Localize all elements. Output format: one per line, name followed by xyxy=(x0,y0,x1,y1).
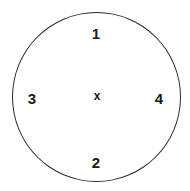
position-label-top: 1 xyxy=(92,26,100,41)
position-label-bottom: 2 xyxy=(92,155,100,170)
center-mark: x xyxy=(94,90,101,102)
position-label-right: 4 xyxy=(155,91,163,106)
diagram: 1 2 3 4 x xyxy=(0,0,190,191)
position-label-left: 3 xyxy=(28,91,36,106)
